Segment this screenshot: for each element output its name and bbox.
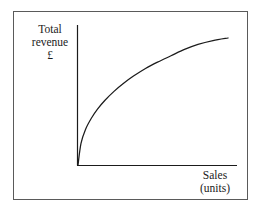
figure-container: Total revenue £ Sales (units) <box>0 0 263 213</box>
y-axis-label: Total revenue £ <box>22 23 78 62</box>
y-axis-label-currency-symbol: £ <box>22 49 78 62</box>
x-axis-label: Sales (units) <box>185 169 245 195</box>
x-axis-label-line-2: (units) <box>185 182 245 195</box>
y-axis-label-line-2: revenue <box>22 36 78 49</box>
y-axis-label-line-1: Total <box>22 23 78 36</box>
x-axis-label-line-1: Sales <box>185 169 245 182</box>
